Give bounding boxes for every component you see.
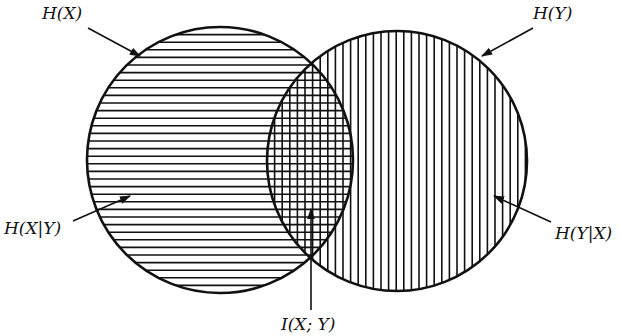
label-hy: H(Y) bbox=[533, 5, 572, 22]
label-hx-given-y: H(X|Y) bbox=[4, 220, 61, 237]
arrow-hy bbox=[482, 28, 533, 56]
label-hx: H(X) bbox=[42, 5, 82, 22]
venn-diagram bbox=[0, 0, 619, 336]
label-hy-given-x: H(Y|X) bbox=[555, 225, 612, 242]
label-mutual-info: I(X; Y) bbox=[281, 316, 335, 333]
arrow-hx bbox=[88, 28, 140, 56]
